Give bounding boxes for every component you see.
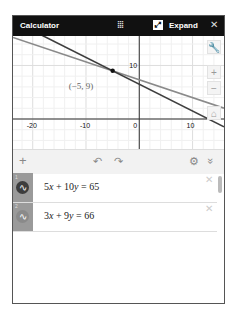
grip-dots-icon[interactable]: ⁞⁞⁞ bbox=[117, 20, 123, 30]
intersection-point bbox=[110, 69, 114, 73]
redo-button[interactable]: ↷ bbox=[114, 155, 123, 168]
collapse-chevron-icon[interactable]: » bbox=[205, 158, 217, 164]
wrench-icon[interactable]: 🔧 bbox=[207, 40, 221, 54]
calculator-header[interactable]: Calculator ⁞⁞⁞ ⤢ Expand ✕ bbox=[13, 16, 224, 36]
settings-gear-icon[interactable]: ⚙ bbox=[189, 155, 199, 168]
calculator-widget: Calculator ⁞⁞⁞ ⤢ Expand ✕ -20-1001010(−5… bbox=[12, 15, 225, 304]
expression-toolbar: + ↶ ↷ ⚙ » bbox=[13, 149, 224, 174]
add-expression-button[interactable]: + bbox=[19, 153, 27, 168]
expression-index: 2 bbox=[15, 203, 18, 209]
graph-canvas[interactable]: -20-1001010(−5, 9) bbox=[13, 36, 224, 149]
intersection-label: (−5, 9) bbox=[69, 81, 94, 91]
scrollbar-thumb[interactable] bbox=[218, 176, 222, 193]
expand-arrows-icon[interactable]: ⤢ bbox=[153, 20, 163, 30]
home-icon[interactable]: ⌂ bbox=[207, 106, 221, 120]
expression-scrollbar[interactable] bbox=[218, 173, 222, 303]
expression-item[interactable]: 1 ∿ 5x + 10y = 65 ✕ bbox=[13, 173, 217, 203]
zoom-in-button[interactable]: + bbox=[207, 65, 221, 79]
expression-index: 1 bbox=[15, 174, 18, 180]
graph-wave-icon[interactable]: ∿ bbox=[16, 181, 29, 194]
expression-item[interactable]: 2 ∿ 3x + 9y = 66 ✕ bbox=[13, 202, 217, 232]
y-tick-label: 10 bbox=[129, 62, 137, 69]
x-tick-label: 10 bbox=[187, 122, 195, 129]
undo-button[interactable]: ↶ bbox=[93, 155, 102, 168]
x-tick-label: 0 bbox=[133, 122, 137, 129]
delete-expression-icon[interactable]: ✕ bbox=[205, 174, 213, 185]
expression-math[interactable]: 3x + 9y = 66 bbox=[44, 210, 94, 221]
expression-math[interactable]: 5x + 10y = 65 bbox=[44, 181, 99, 192]
expand-button[interactable]: Expand bbox=[169, 21, 198, 30]
graph-wave-icon[interactable]: ∿ bbox=[16, 210, 29, 223]
x-tick-label: -10 bbox=[80, 122, 90, 129]
zoom-out-button[interactable]: − bbox=[207, 81, 221, 95]
calculator-title: Calculator bbox=[20, 21, 59, 30]
x-tick-label: -20 bbox=[27, 122, 37, 129]
graph-paper[interactable]: -20-1001010(−5, 9) 🔧 + − ⌂ bbox=[13, 36, 224, 149]
delete-expression-icon[interactable]: ✕ bbox=[205, 203, 213, 214]
close-icon[interactable]: ✕ bbox=[210, 19, 218, 30]
expression-list: 1 ∿ 5x + 10y = 65 ✕ 2 ∿ 3x + 9y = 66 ✕ bbox=[13, 173, 224, 303]
